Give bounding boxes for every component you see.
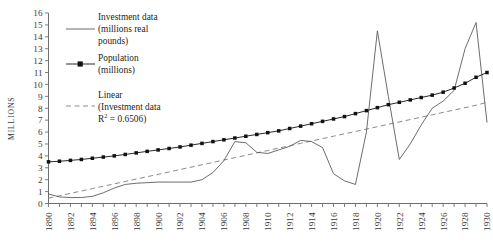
population-data-point	[134, 151, 138, 155]
x-tick-label: 1892	[66, 212, 76, 231]
population-data-point	[156, 148, 160, 152]
population-data-point	[178, 145, 182, 149]
population-data-point	[387, 103, 391, 107]
x-tick-label: 1890	[44, 212, 54, 231]
x-tick-label: 1900	[154, 212, 164, 231]
x-tick-label: 1906	[219, 212, 229, 231]
population-data-point	[200, 142, 204, 146]
legend-square-marker-icon	[78, 61, 83, 66]
x-tick-label: 1902	[175, 212, 185, 231]
population-data-point	[167, 147, 171, 151]
population-data-point	[299, 124, 303, 128]
x-tick-label: 1918	[351, 212, 361, 231]
population-data-point	[354, 112, 358, 116]
population-data-point	[211, 140, 215, 144]
y-tick-label: 15	[33, 20, 43, 30]
y-tick-label: 8	[38, 104, 43, 114]
y-tick-label: 4	[38, 151, 43, 161]
population-data-point	[255, 133, 259, 137]
x-tick-label: 1908	[241, 212, 251, 231]
population-data-point	[277, 129, 281, 133]
x-tick-label: 1914	[307, 212, 317, 231]
population-data-point	[113, 154, 117, 158]
population-data-point	[452, 86, 456, 90]
x-tick-label: 1894	[88, 212, 98, 231]
x-tick-label: 1904	[197, 212, 207, 231]
legend-investment-line3: pounds)	[98, 36, 128, 47]
population-data-point	[398, 101, 402, 105]
y-tick-label: 1	[38, 187, 43, 197]
population-data-point	[58, 159, 62, 163]
y-tick-label: 3	[38, 163, 43, 173]
x-tick-label: 1898	[132, 212, 142, 231]
y-tick-label: 10	[33, 80, 43, 90]
population-data-point	[485, 71, 489, 75]
y-tick-label: 14	[33, 32, 43, 42]
x-tick-label: 1930	[482, 212, 492, 231]
population-data-point	[80, 158, 84, 162]
y-tick-label: 7	[38, 115, 43, 125]
x-tick-label: 1926	[439, 212, 449, 231]
population-data-point	[419, 96, 423, 100]
chart-container: 012345678910111213141516 189018921894189…	[0, 0, 493, 247]
x-tick-label: 1896	[110, 212, 120, 231]
x-tick-label: 1916	[329, 212, 339, 231]
x-axis-tick-labels: 1890189218941896189819001902190419061908…	[44, 212, 493, 231]
x-tick-label: 1912	[285, 212, 295, 231]
population-data-point	[244, 134, 248, 138]
y-axis-title: MILLIONS	[7, 97, 16, 140]
y-tick-label: 6	[38, 127, 43, 137]
y-tick-label: 12	[33, 56, 43, 66]
x-tick-label: 1924	[417, 212, 427, 231]
legend-trend-line1: Linear	[98, 90, 123, 100]
legend-population-line1: Population	[98, 53, 139, 63]
population-data-point	[441, 90, 445, 94]
population-data-point	[69, 159, 73, 163]
population-data-point	[463, 81, 467, 85]
x-axis-ticks	[49, 204, 488, 208]
population-data-point	[233, 136, 237, 140]
x-tick-label: 1910	[263, 212, 273, 231]
population-data-point	[102, 155, 106, 159]
y-tick-label: 11	[34, 68, 43, 78]
legend-investment-line1: Investment data	[98, 12, 158, 22]
population-data-point	[123, 153, 127, 157]
population-data-point	[376, 106, 380, 110]
y-tick-label: 16	[33, 8, 43, 18]
population-data-point	[222, 138, 226, 142]
x-tick-label: 1922	[395, 212, 405, 231]
y-tick-label: 2	[38, 175, 43, 185]
chart-background	[0, 0, 493, 247]
population-data-point	[145, 150, 149, 154]
population-data-point	[332, 117, 336, 121]
population-data-point	[365, 109, 369, 113]
x-tick-label: 1920	[373, 212, 383, 231]
population-data-point	[189, 143, 193, 147]
y-tick-label: 5	[38, 139, 43, 149]
investment-population-line-chart: 012345678910111213141516 189018921894189…	[0, 0, 493, 247]
x-tick-label: 1928	[460, 212, 470, 231]
y-tick-label: 13	[33, 44, 43, 54]
population-data-point	[47, 160, 51, 164]
population-data-point	[430, 93, 434, 97]
legend-r-value: = 0.6506)	[107, 114, 146, 125]
population-data-point	[288, 127, 292, 131]
population-data-point	[409, 98, 413, 102]
population-data-point	[91, 157, 95, 161]
population-data-point	[474, 76, 478, 80]
legend-trend-line2: (Investment data	[98, 102, 162, 113]
population-data-point	[321, 120, 325, 124]
legend-investment-line2: (millions real	[98, 24, 149, 35]
legend-population-line2: (millions)	[98, 65, 135, 76]
y-tick-label: 0	[38, 199, 43, 209]
y-tick-label: 9	[38, 92, 43, 102]
population-data-point	[343, 115, 347, 119]
population-data-point	[310, 122, 314, 126]
population-data-point	[266, 131, 270, 135]
